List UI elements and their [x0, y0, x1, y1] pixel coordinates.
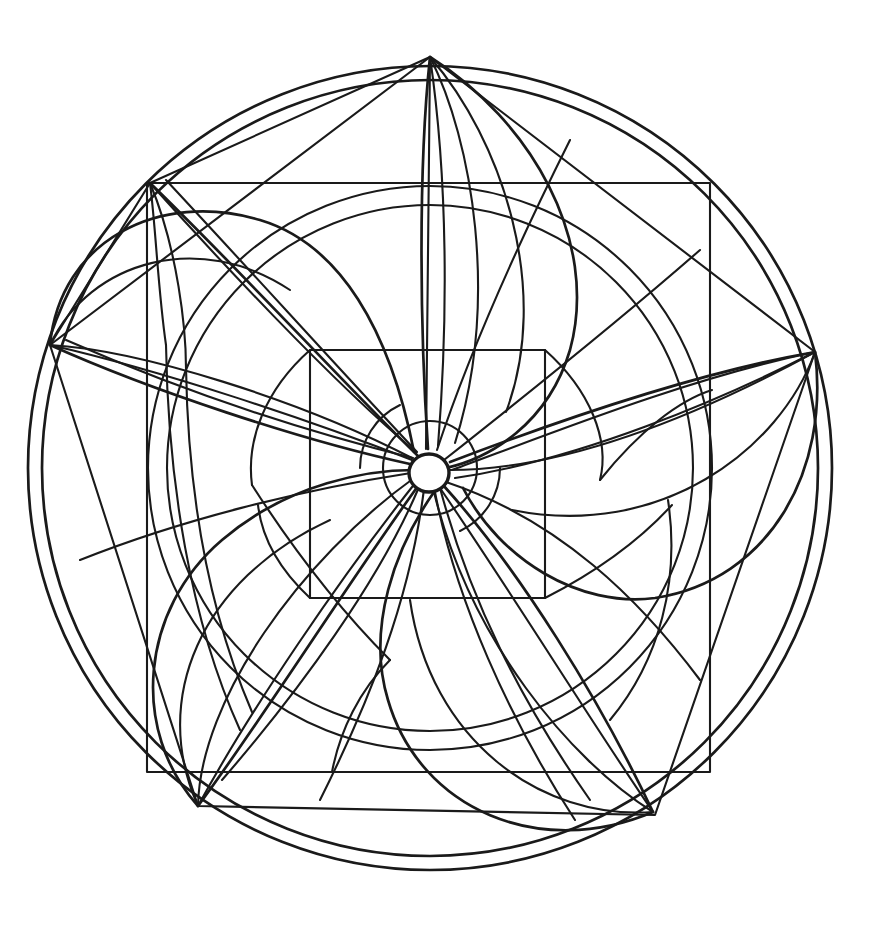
- mandala-artboard: [0, 0, 885, 940]
- mandala-illustration: [0, 0, 885, 940]
- center-hub-circle: [409, 454, 449, 492]
